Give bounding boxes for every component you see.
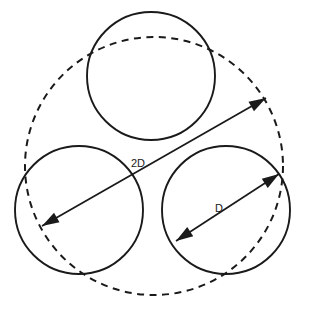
dimension-2D-label: 2D <box>131 157 145 169</box>
inner-circle-bottom-right <box>162 146 290 274</box>
inner-circle-bottom-left <box>15 146 143 274</box>
diagram-canvas: 2D D <box>0 0 311 313</box>
dimension-D: D <box>176 174 279 241</box>
dimension-2D-line <box>42 98 266 226</box>
dimension-2D-arrowhead-start <box>42 213 59 226</box>
dimension-D-label: D <box>215 202 223 214</box>
enclosing-dashed-circle <box>25 37 283 295</box>
geometry-diagram: 2D D <box>0 0 311 313</box>
dimension-D-line <box>176 174 279 241</box>
dimension-D-arrowhead-end <box>262 174 279 188</box>
dimension-D-arrowhead-start <box>176 227 193 241</box>
inner-circle-top <box>87 12 215 140</box>
dimension-2D: 2D <box>42 98 266 226</box>
dimension-2D-arrowhead-end <box>249 98 266 111</box>
